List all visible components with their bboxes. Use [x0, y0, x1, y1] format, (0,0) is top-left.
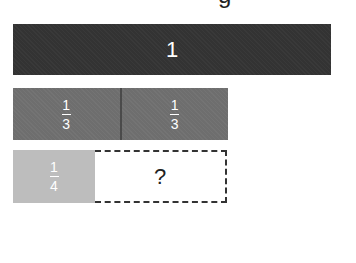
numerator: 1 [171, 98, 179, 112]
fraction: 1 3 [170, 98, 179, 131]
quarter-segment: 1 4 [13, 150, 95, 203]
denominator: 3 [171, 117, 179, 131]
whole-bar: 1 [13, 24, 331, 75]
denominator: 3 [62, 117, 70, 131]
fraction: 1 3 [62, 98, 71, 131]
fraction-bar [50, 176, 59, 177]
cut-off-title-text: g [218, 0, 231, 6]
denominator: 4 [50, 179, 58, 193]
numerator: 1 [62, 98, 70, 112]
third-segment: 1 3 [13, 88, 120, 140]
thirds-row: 1 3 1 3 [13, 88, 228, 140]
whole-label: 1 [166, 37, 178, 63]
fraction-bar [170, 114, 179, 115]
numerator: 1 [50, 160, 58, 174]
fraction-bar [62, 114, 71, 115]
third-segment: 1 3 [120, 88, 229, 140]
unknown-segment: ? [95, 150, 227, 203]
fraction: 1 4 [50, 160, 59, 193]
unknown-label: ? [154, 164, 166, 190]
